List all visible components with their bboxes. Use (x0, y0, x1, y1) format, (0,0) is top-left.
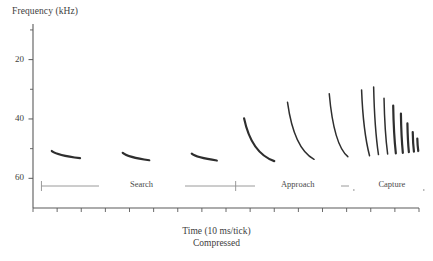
call-trace (52, 151, 80, 158)
call-trace (329, 94, 348, 157)
phase-label-capture: Capture (349, 179, 433, 189)
call-trace (123, 153, 150, 160)
call-trace (384, 98, 388, 154)
phase-label-approach: Approach (255, 179, 341, 189)
plot-canvas (0, 0, 433, 261)
call-trace (417, 139, 418, 151)
x-axis-title-main: Time (10 ms/tick) (182, 226, 250, 236)
call-trace (374, 87, 379, 155)
call-trace (393, 106, 396, 154)
call-trace (192, 154, 217, 161)
x-axis-title: Time (10 ms/tick) Compressed (0, 226, 433, 249)
y-tick-label: 20 (4, 54, 24, 64)
x-axis-subtitle: Compressed (0, 238, 433, 250)
spectrogram-figure: Frequency (kHz) 604020 SearchApproachCap… (0, 0, 433, 261)
call-trace (288, 102, 315, 159)
phase-label-search: Search (99, 179, 185, 189)
call-traces-layer (52, 87, 418, 161)
call-trace (407, 123, 408, 152)
call-trace (362, 90, 370, 156)
call-trace (413, 132, 414, 152)
y-tick-label: 60 (4, 172, 24, 182)
y-tick-label: 40 (4, 113, 24, 123)
call-trace (401, 114, 403, 153)
call-trace (244, 118, 274, 161)
